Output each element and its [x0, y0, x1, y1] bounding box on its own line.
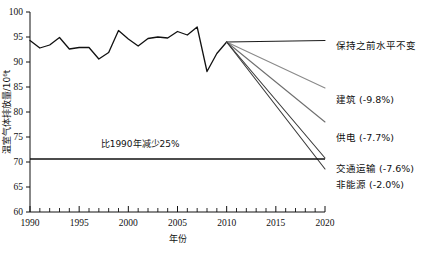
annotations-group: 比1990年减少25% — [101, 138, 180, 149]
y-tick-label: 85 — [14, 82, 24, 92]
y-tick-label: 60 — [14, 207, 24, 217]
y-tick-label: 90 — [14, 57, 24, 67]
projection-line — [227, 42, 325, 158]
target-annotation-label: 比1990年减少25% — [101, 138, 180, 149]
x-tick-label: 2020 — [316, 218, 335, 228]
x-axis-ticks: 1990199520002005201020152020 — [21, 206, 335, 228]
x-axis-title: 年份 — [169, 233, 187, 244]
y-tick-label: 95 — [14, 32, 24, 42]
legend-entry-label: 建筑 (-9.8%) — [336, 94, 394, 105]
legend-group: 保持之前水平不变建筑 (-9.8%)供电 (-7.7%)交通运输 (-7.6%)… — [336, 40, 416, 190]
historical-emissions-line — [30, 27, 227, 72]
x-tick-label: 2005 — [168, 218, 187, 228]
projection-line — [227, 41, 325, 43]
x-tick-label: 2000 — [119, 218, 138, 228]
projection-line — [227, 42, 325, 122]
projection-line — [227, 42, 325, 88]
x-tick-label: 1990 — [21, 218, 40, 228]
greenhouse-gas-emissions-chart: 6065707580859095100 19901995200020052010… — [0, 0, 434, 273]
y-tick-label: 65 — [14, 182, 24, 192]
legend-entry-label: 交通运输 (-7.6%) — [336, 163, 414, 174]
x-tick-label: 2015 — [266, 218, 285, 228]
legend-entry-label: 供电 (-7.7%) — [336, 132, 394, 143]
y-axis-title: 温室气体排放量/10⁶t — [1, 69, 12, 154]
y-tick-label: 80 — [14, 107, 24, 117]
y-tick-label: 100 — [9, 7, 24, 17]
x-tick-label: 2010 — [217, 218, 236, 228]
projection-line — [227, 42, 325, 169]
x-tick-label: 1995 — [70, 218, 89, 228]
y-tick-label: 70 — [14, 157, 24, 167]
legend-entry-label: 保持之前水平不变 — [336, 40, 416, 51]
legend-entry-label: 非能源 (-2.0%) — [336, 179, 404, 190]
y-tick-label: 75 — [14, 132, 24, 142]
chart-container: 6065707580859095100 19901995200020052010… — [0, 0, 434, 273]
